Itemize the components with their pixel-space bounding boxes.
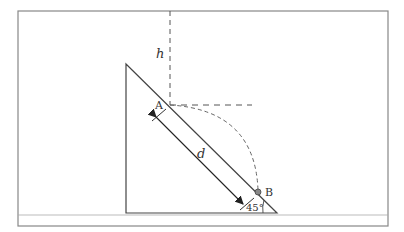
incline-diagram: h A d B 45° <box>0 0 404 232</box>
incline-triangle <box>126 64 277 213</box>
frame <box>18 11 388 226</box>
ball-b <box>255 189 261 195</box>
label-a: A <box>154 99 164 112</box>
trajectory-curve <box>170 105 258 190</box>
label-b: B <box>265 186 273 199</box>
label-angle: 45° <box>246 202 264 213</box>
label-d: d <box>197 146 205 161</box>
label-h: h <box>156 46 164 61</box>
